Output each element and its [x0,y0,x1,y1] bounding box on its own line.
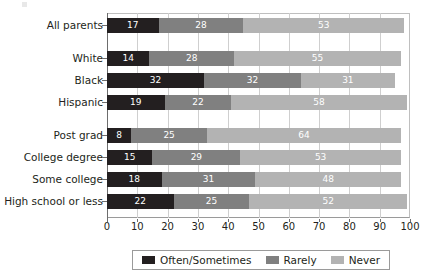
bar-segment: 19 [107,95,165,110]
bar-segment: 29 [152,150,240,165]
crop-artifact [22,2,27,7]
x-axis-tick-label: 10 [122,221,152,233]
x-axis-tick-label: 100 [395,221,425,233]
chart-row: College degree152953 [0,150,431,165]
bar-segment: 28 [149,51,234,66]
chart-row: Post grad82564 [0,128,431,143]
category-label: Post grad [0,128,103,143]
x-axis-tick-label: 20 [153,221,183,233]
bar-stack: 323231 [107,73,410,88]
x-axis-tick-label: 70 [304,221,334,233]
bar-segment: 31 [162,172,256,187]
x-axis-tick-label: 80 [334,221,364,233]
bar-segment: 32 [107,73,204,88]
x-axis-tick-label: 60 [274,221,304,233]
gridline [137,13,138,218]
legend-item[interactable]: Never [331,254,380,266]
legend-swatch-icon [142,256,155,264]
bar-segment: 28 [159,18,244,33]
x-axis-tick-label: 90 [365,221,395,233]
gridline [228,13,229,218]
gridline [259,13,260,218]
bar-segment: 58 [231,95,407,110]
gridline [289,13,290,218]
category-label: Some college [0,172,103,187]
bar-stack: 172853 [107,18,410,33]
x-axis-tick-label: 50 [244,221,274,233]
category-label: White [0,51,103,66]
y-axis-line [107,13,108,219]
bar-stack: 82564 [107,128,410,143]
bar-segment: 31 [301,73,395,88]
legend-swatch-icon [331,256,344,264]
gridline [349,13,350,218]
bar-segment: 25 [131,128,207,143]
bar-stack: 222552 [107,194,410,209]
chart-row: White142855 [0,51,431,66]
bar-segment: 25 [174,194,250,209]
bar-segment: 22 [107,194,174,209]
chart-row: Some college183148 [0,172,431,187]
x-axis-tick-label: 0 [92,221,122,233]
bar-segment: 18 [107,172,162,187]
gridline [319,13,320,218]
category-label: College degree [0,150,103,165]
category-label: Black [0,73,103,88]
bar-segment: 52 [249,194,407,209]
bar-segment: 15 [107,150,152,165]
x-axis-tick-label: 40 [213,221,243,233]
category-label: High school or less [0,194,103,209]
bar-stack: 192258 [107,95,410,110]
legend-swatch-icon [266,256,279,264]
legend-label: Never [349,254,380,266]
gridline [198,13,199,218]
chart-row: All parents172853 [0,18,431,33]
bar-segment: 53 [240,150,401,165]
bar-segment: 48 [255,172,400,187]
category-label: Hispanic [0,95,103,110]
bar-segment: 22 [165,95,232,110]
chart-row: Hispanic192258 [0,95,431,110]
bar-segment: 8 [107,128,131,143]
category-label: All parents [0,18,103,33]
legend-item[interactable]: Often/Sometimes [142,254,252,266]
gridline [168,13,169,218]
chart-legend: Often/SometimesRarelyNever [132,250,390,270]
bar-segment: 32 [204,73,301,88]
chart-row: High school or less222552 [0,194,431,209]
bar-segment: 64 [207,128,401,143]
bar-stack: 152953 [107,150,410,165]
bar-stack: 142855 [107,51,410,66]
bar-segment: 55 [234,51,401,66]
bar-segment: 17 [107,18,159,33]
legend-label: Rarely [284,254,317,266]
legend-label: Often/Sometimes [160,254,252,266]
bar-stack: 183148 [107,172,410,187]
x-axis-tick-label: 30 [183,221,213,233]
legend-item[interactable]: Rarely [266,254,317,266]
gridline [380,13,381,218]
bar-segment: 53 [243,18,404,33]
bar-segment: 14 [107,51,149,66]
chart-row: Black323231 [0,73,431,88]
stacked-bar-chart: All parents172853White142855Black323231H… [0,0,431,279]
